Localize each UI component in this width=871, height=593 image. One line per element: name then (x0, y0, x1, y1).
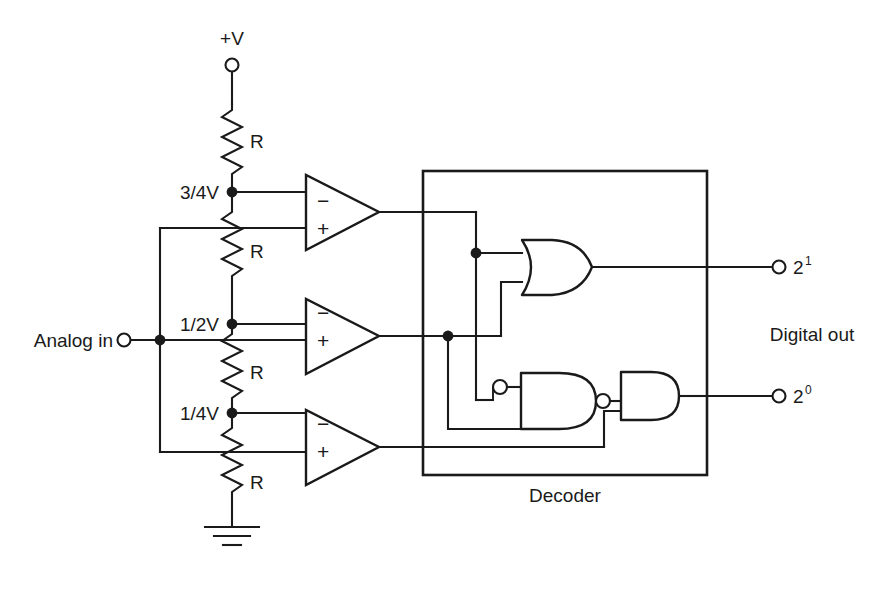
tap-label-1-4v: 1/4V (180, 403, 219, 424)
output-terminal-2-0-icon (773, 390, 786, 403)
resistor-label-3: R (250, 362, 264, 383)
decoder-label: Decoder (529, 485, 601, 506)
analog-in-label: Analog in (34, 330, 113, 351)
supply-rail-group (226, 59, 239, 105)
resistor-label-2: R (250, 241, 264, 262)
junction-dot-c1-or (471, 248, 482, 259)
supply-label: +V (220, 28, 244, 49)
resistor-ladder-group (222, 104, 242, 525)
junction-dot-3-4v (227, 187, 238, 198)
resistor-label-4: R (250, 472, 264, 493)
c3-to-and-bottom-input (604, 411, 621, 447)
nand-input-bubble-icon (493, 380, 507, 394)
adc-circuit-diagram: +V R R R R 3/4V 1/2V 1/4V Analog in − + … (0, 0, 871, 593)
junction-dot-1-2v (227, 319, 238, 330)
nand-gate-body (521, 373, 596, 429)
tap-label-1-2v: 1/2V (180, 314, 219, 335)
tap-label-3-4v: 3/4V (180, 182, 219, 203)
nand-output-bubble-icon (596, 394, 610, 408)
analog-in-terminal-icon (118, 334, 131, 347)
junction-dot-analog-bus (155, 335, 166, 346)
resistor-r2 (222, 192, 242, 324)
digital-out-label: Digital out (770, 324, 855, 345)
comparator-2-plus-sign: + (317, 329, 329, 352)
comparator-1-minus-sign: − (317, 189, 329, 212)
resistor-r3 (222, 324, 242, 413)
resistor-label-1: R (250, 131, 264, 152)
comparator-2-minus-sign: − (317, 301, 329, 324)
output-pin-label-2-1-base: 2 (793, 257, 804, 278)
supply-terminal-icon (226, 59, 239, 72)
or-gate-body (522, 240, 592, 295)
tap-wires-group (227, 187, 306, 419)
output-pin-label-2-0-base: 2 (793, 386, 804, 407)
and-gate (621, 372, 707, 420)
output-terminal-2-1-icon (773, 261, 786, 274)
junction-dot-1-4v (227, 408, 238, 419)
comparator-1-plus-sign: + (317, 217, 329, 240)
resistor-r1 (222, 104, 242, 192)
ground-symbol-icon (205, 527, 259, 545)
comparator-3-plus-sign: + (317, 440, 329, 463)
output-pin-label-2-0-exponent: 0 (805, 383, 812, 397)
resistor-r4 (222, 413, 242, 525)
nand-gate (493, 373, 621, 429)
c2-to-nand-bottom-input (448, 336, 521, 429)
comparator-3-minus-sign: − (317, 412, 329, 435)
and-gate-body (621, 372, 679, 420)
c2-to-or-bottom-input (501, 282, 522, 336)
or-gate (522, 240, 707, 295)
output-pin-label-2-1-exponent: 1 (805, 254, 812, 268)
